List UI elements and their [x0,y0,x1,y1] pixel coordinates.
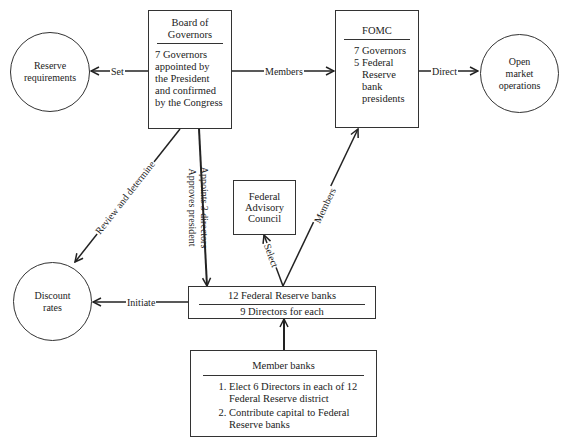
member-banks-divider [203,375,364,376]
federal-advisory-council-box: Federal Advisory Council [233,180,296,235]
reserve-banks-subtitle: 9 Directors for each [189,306,375,318]
board-of-governors-box: Board of Governors 7 Governors appointed… [148,10,232,129]
fomc-body-line: Reserve [354,69,410,81]
edge-label-direct: Direct [431,66,458,77]
member-banks-item: Elect 6 Directors in each of 12 Federal … [229,381,362,405]
open-market-line3: operations [499,80,541,92]
edge-label-approves: Approves president [187,167,198,247]
fomc-body-line: 5 Federal [354,57,410,69]
board-title-line1: Board of [149,17,231,29]
fomc-body-line: 7 Governors [354,45,410,57]
reserve-req-line1: Reserve [24,60,76,72]
board-body-line: by the Congress [155,97,225,109]
fomc-title: FOMC [336,25,418,37]
advisory-line1: Federal [245,191,284,202]
edge-label-initiate: Initiate [126,297,156,308]
fomc-body-line: bank [354,81,410,93]
board-body-line: the President [155,73,225,85]
board-body-line: and confirmed [155,85,225,97]
discount-rates-node: Discount rates [13,262,92,341]
board-body-line: appointed by [155,61,225,73]
board-title-line2: Governors [149,29,231,41]
board-divider [157,43,223,44]
reserve-requirements-node: Reserve requirements [10,32,90,112]
open-market-line2: market [499,68,541,80]
board-body-line: 7 Governors [155,49,225,61]
reserve-req-line2: requirements [24,72,76,84]
edge-label-members-top: Members [264,66,304,77]
member-banks-box: Member banks Elect 6 Directors in each o… [190,350,377,437]
edge-label-appoints: Appoints 3 directors [199,166,210,250]
discount-line2: rates [34,302,70,314]
edge-label-set: Set [110,66,125,77]
discount-line1: Discount [34,290,70,302]
advisory-line3: Council [245,213,284,224]
advisory-line2: Advisory [245,202,284,213]
member-banks-title: Member banks [191,360,376,372]
fomc-body: 7 Governors 5 Federal Reserve bank presi… [336,45,418,105]
reserve-banks-title: 12 Federal Reserve banks [189,290,375,302]
open-market-operations-node: Open market operations [480,34,559,113]
fomc-body-line: presidents [354,93,410,105]
federal-reserve-banks-box: 12 Federal Reserve banks 9 Directors for… [188,286,376,319]
open-market-line1: Open [499,56,541,68]
member-banks-item: Contribute capital to Federal Reserve ba… [229,407,362,431]
fomc-box: FOMC 7 Governors 5 Federal Reserve bank … [335,10,419,128]
reserve-banks-divider [199,304,365,305]
board-body: 7 Governors appointed by the President a… [149,49,231,109]
member-banks-list: Elect 6 Directors in each of 12 Federal … [191,381,376,431]
fomc-divider [344,39,410,40]
